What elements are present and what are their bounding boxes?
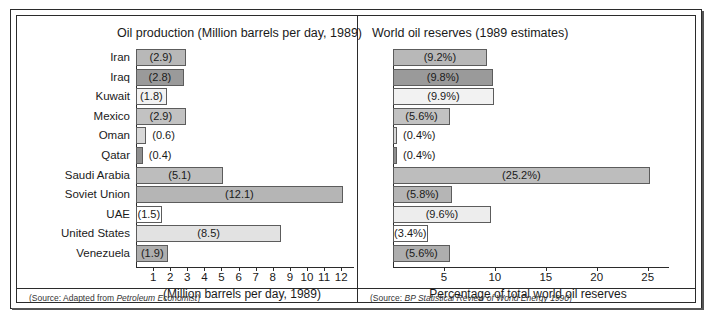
bar-row[interactable]: (1.5)	[136, 206, 348, 223]
source-note-world-oil-reserves: (Source: BP Statistical Review of World …	[370, 293, 690, 303]
x-tick-label: 5	[441, 271, 447, 283]
bar-row[interactable]: (0.6)	[136, 127, 348, 144]
bar-row[interactable]: (9.6%)	[393, 206, 663, 223]
x-tick-label: 9	[287, 271, 293, 283]
bar-row[interactable]: (12.1)	[136, 186, 348, 203]
bar-row[interactable]: (5.8%)	[393, 186, 663, 203]
bar-row[interactable]: (2.9)	[136, 108, 348, 125]
category-label-oman: Oman	[20, 127, 130, 144]
panel-divider-left	[17, 288, 357, 289]
bar-value-label: (1.9)	[136, 245, 168, 262]
x-tick-label: 8	[270, 271, 276, 283]
x-tick-label: 3	[184, 271, 190, 283]
bar-row[interactable]: (5.6%)	[393, 108, 663, 125]
bar-row[interactable]: (0.4%)	[393, 147, 663, 164]
category-label-iraq: Iraq	[20, 69, 130, 86]
bar-row[interactable]: (9.8%)	[393, 69, 663, 86]
bar-value-label: (2.9)	[136, 49, 186, 66]
bar-value-label: (5.6%)	[393, 245, 450, 262]
bar-row[interactable]: (0.4)	[136, 147, 348, 164]
bar-row[interactable]: (5.6%)	[393, 245, 663, 262]
x-tick-label: 4	[201, 271, 207, 283]
bar-row[interactable]: (2.9)	[136, 49, 348, 66]
x-axis-line	[393, 267, 669, 268]
figure-root: Oil production (Million barrels per day,…	[0, 0, 712, 326]
chart-panel-world-oil-reserves: World oil reserves (1989 estimates) (9.2…	[357, 16, 696, 302]
category-label-uae: UAE	[20, 206, 130, 223]
bar-value-label: (0.4)	[149, 147, 172, 164]
x-tick-label: 10	[301, 271, 314, 283]
bar-row[interactable]: (9.2%)	[393, 49, 663, 66]
bar-oman[interactable]	[136, 127, 146, 144]
x-tick-label: 11	[318, 271, 330, 283]
bar-value-label: (3.4%)	[393, 225, 428, 242]
bar-value-label: (12.1)	[136, 186, 343, 203]
bar-row[interactable]: (8.5)	[136, 225, 348, 242]
category-label-kuwait: Kuwait	[20, 88, 130, 105]
bar-value-label: (9.8%)	[393, 69, 493, 86]
category-label-united-states: United States	[20, 225, 130, 242]
bar-row[interactable]: (3.4%)	[393, 225, 663, 242]
bar-value-label: (2.8)	[136, 69, 184, 86]
bar-value-label: (5.1)	[136, 167, 223, 184]
x-tick-label: 15	[539, 271, 552, 283]
x-tick-label: 1	[150, 271, 156, 283]
plot-area-oil-production: (2.9)Iran(2.8)Iraq(1.8)Kuwait(2.9)Mexico…	[136, 49, 348, 269]
bar-row[interactable]: (25.2%)	[393, 167, 663, 184]
bar-qatar[interactable]	[393, 147, 397, 164]
bar-value-label: (9.9%)	[393, 88, 494, 105]
x-tick-label: 7	[252, 271, 258, 283]
panel-divider-right	[358, 288, 696, 289]
plot-area-world-oil-reserves: (9.2%)(9.8%)(9.9%)(5.6%)(0.4%)(0.4%)(25.…	[393, 49, 663, 269]
x-axis-line	[136, 267, 354, 268]
bar-value-label: (1.8)	[136, 88, 167, 105]
figure-right-shadow	[702, 11, 704, 310]
bar-row[interactable]: (1.9)	[136, 245, 348, 262]
bar-value-label: (8.5)	[136, 225, 281, 242]
bar-value-label: (9.2%)	[393, 49, 487, 66]
chart-title-oil-production: Oil production (Million barrels per day,…	[117, 26, 362, 40]
bar-value-label: (0.6)	[152, 127, 175, 144]
bar-value-label: (5.6%)	[393, 108, 450, 125]
bar-row[interactable]: (2.8)	[136, 69, 348, 86]
x-tick-label: 6	[235, 271, 241, 283]
category-label-mexico: Mexico	[20, 108, 130, 125]
bar-value-label: (9.6%)	[393, 206, 491, 223]
bar-value-label: (25.2%)	[393, 167, 650, 184]
x-tick-label: 25	[641, 271, 654, 283]
bar-value-label: (2.9)	[136, 108, 186, 125]
chart-title-world-oil-reserves: World oil reserves (1989 estimates)	[372, 26, 568, 40]
category-label-venezuela: Venezuela	[20, 245, 130, 262]
bar-value-label: (1.5)	[136, 206, 162, 223]
x-tick-label: 10	[488, 271, 501, 283]
bar-oman[interactable]	[393, 127, 397, 144]
x-tick-label: 2	[167, 271, 173, 283]
bar-value-label: (5.8%)	[393, 186, 452, 203]
x-tick-label: 20	[590, 271, 603, 283]
bar-value-label: (0.4%)	[403, 147, 435, 164]
category-label-soviet-union: Soviet Union	[20, 186, 130, 203]
bar-value-label: (0.4%)	[403, 127, 435, 144]
x-tick-label: 12	[335, 271, 348, 283]
bar-row[interactable]: (9.9%)	[393, 88, 663, 105]
source-note-oil-production: (Source: Adapted from Petroleum Economis…	[29, 293, 349, 303]
bar-row[interactable]: (0.4%)	[393, 127, 663, 144]
bar-qatar[interactable]	[136, 147, 143, 164]
category-label-saudi-arabia: Saudi Arabia	[20, 167, 130, 184]
bar-row[interactable]: (1.8)	[136, 88, 348, 105]
category-label-iran: Iran	[20, 49, 130, 66]
category-label-qatar: Qatar	[20, 147, 130, 164]
chart-panel-oil-production: Oil production (Million barrels per day,…	[17, 16, 357, 302]
figure-bottom-shadow	[12, 308, 704, 310]
x-tick-label: 5	[218, 271, 224, 283]
bar-row[interactable]: (5.1)	[136, 167, 348, 184]
